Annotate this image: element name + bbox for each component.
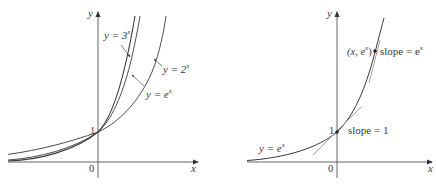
curve-2x xyxy=(8,16,166,154)
left-y-label: y xyxy=(87,7,93,19)
right-origin-label: 0 xyxy=(328,163,333,174)
curve-ex-right xyxy=(247,18,384,161)
right-graph: y x 0 1 y = ex (x, ex) slope = ex slope … xyxy=(247,7,433,178)
left-x-label: x xyxy=(190,162,196,174)
right-y-label: y xyxy=(326,7,332,19)
point-0-1 xyxy=(335,130,339,134)
curve-label-right: y = ex xyxy=(258,141,286,154)
left-graph: y x 0 1 y = 3x y = ex y = 2x xyxy=(8,7,198,178)
left-intercept-label: 1 xyxy=(90,125,95,136)
label-2x: y = 2x xyxy=(162,62,190,75)
label-ex: y = ex xyxy=(145,87,173,100)
right-intercept-label: 1 xyxy=(329,125,334,136)
point-x-ex xyxy=(373,49,377,53)
right-x-label: x xyxy=(427,162,433,174)
pointer-ex xyxy=(132,75,144,86)
point-label: (x, ex) xyxy=(347,44,372,58)
label-3x: y = 3x xyxy=(103,28,131,41)
left-origin-label: 0 xyxy=(89,163,94,174)
slope-at-point-label: slope = ex xyxy=(380,44,424,57)
exponential-diagram: y x 0 1 y = 3x y = ex y = 2x y x 0 1 xyxy=(0,0,436,192)
slope-at-zero-label: slope = 1 xyxy=(348,124,388,136)
